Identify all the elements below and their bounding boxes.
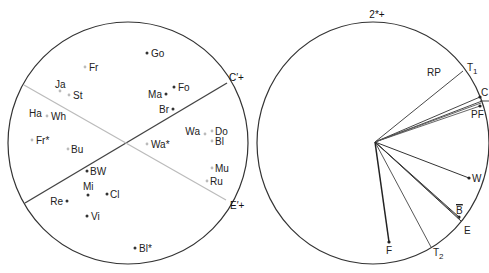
vector-label: F: [386, 245, 392, 256]
vector-label: E: [464, 225, 471, 236]
data-point-label: Wa*: [151, 139, 170, 150]
data-point-label: Re: [50, 196, 63, 207]
data-point-label: Cl: [110, 189, 119, 200]
diagram-canvas: C′+E′+GoFrJaStFoMaBrHaWhWaDoFr*BuWa*BlBW…: [0, 0, 489, 273]
right-circle-diagram: 2*+RPT1CPFWBEFT2: [257, 9, 489, 264]
top-axis-label: 2*+: [369, 9, 384, 20]
data-point-label: Ja: [55, 79, 66, 90]
data-point-label: BW: [90, 166, 107, 177]
data-point-marker: [134, 247, 137, 250]
data-point-label: Ma: [148, 89, 162, 100]
data-point-marker: [211, 130, 214, 133]
vector-line: [375, 142, 389, 242]
data-point-marker: [68, 94, 71, 97]
data-point-marker: [173, 86, 176, 89]
data-point-marker: [67, 148, 70, 151]
data-point-label: Br: [159, 104, 170, 115]
data-point-label: Fo: [178, 82, 190, 93]
data-point-label: Fr: [89, 62, 99, 73]
vector-label: W: [472, 173, 482, 184]
data-point-marker: [31, 139, 34, 142]
vector-label: T2: [433, 247, 444, 261]
data-point-marker: [146, 52, 149, 55]
data-point-marker: [84, 66, 87, 69]
left-circle-diagram: C′+E′+GoFrJaStFoMaBrHaWhWaDoFr*BuWa*BlBW…: [8, 22, 248, 264]
vector-line: [375, 71, 463, 142]
axis-label: C′+: [229, 72, 244, 83]
vector-line: [375, 142, 469, 178]
vector-endpoint: [387, 240, 390, 243]
data-point-label: Fr*: [36, 135, 49, 146]
vector-label: PF: [471, 109, 484, 120]
vector-endpoint: [467, 176, 470, 179]
data-point-marker: [146, 143, 149, 146]
data-point-marker: [59, 90, 62, 93]
data-point-marker: [46, 115, 49, 118]
vector-label: B: [456, 205, 463, 216]
vector-line: [375, 142, 431, 247]
vector-line: [375, 106, 480, 142]
vector-line: [375, 142, 461, 221]
axis-label: E′+: [230, 200, 245, 211]
data-point-marker: [211, 140, 214, 143]
vector-label: RP: [427, 67, 441, 78]
data-point-label: Mu: [215, 163, 229, 174]
data-point-marker: [206, 180, 209, 183]
data-point-marker: [66, 200, 69, 203]
data-point-marker: [204, 133, 207, 136]
data-point-label: St: [73, 90, 83, 101]
data-point-marker: [165, 93, 168, 96]
data-point-label: Wh: [51, 111, 66, 122]
data-point-label: Vi: [91, 211, 100, 222]
data-point-label: Ru: [210, 176, 223, 187]
data-point-label: Bl*: [139, 243, 152, 254]
data-point-marker: [86, 215, 89, 218]
vector-endpoint: [478, 104, 481, 107]
data-point-label: Wa: [185, 126, 200, 137]
data-point-marker: [211, 167, 214, 170]
vector-line: [375, 97, 480, 142]
right-circle-outline: [257, 22, 489, 264]
data-point-label: Ha: [29, 108, 42, 119]
data-point-label: Mi: [83, 181, 94, 192]
data-point-marker: [106, 193, 109, 196]
vector-label: C: [481, 87, 488, 98]
data-point-label: Bl: [215, 136, 224, 147]
data-point-marker: [86, 170, 89, 173]
data-point-marker: [87, 194, 90, 197]
data-point-label: Go: [151, 48, 165, 59]
data-point-label: Bu: [71, 144, 83, 155]
data-point-marker: [172, 108, 175, 111]
